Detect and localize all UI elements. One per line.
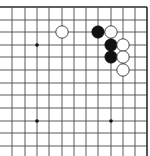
white-stone[interactable] xyxy=(117,39,129,51)
star-point xyxy=(35,43,39,47)
white-stone[interactable] xyxy=(117,64,129,76)
black-stone[interactable] xyxy=(105,39,117,51)
black-stone[interactable] xyxy=(92,26,104,38)
black-stone[interactable] xyxy=(105,51,117,63)
star-point xyxy=(109,119,113,123)
stones xyxy=(56,26,129,76)
white-stone[interactable] xyxy=(105,26,117,38)
star-point xyxy=(35,119,39,123)
white-stone[interactable] xyxy=(117,51,129,63)
board-grid xyxy=(0,7,147,156)
go-board[interactable] xyxy=(0,0,150,156)
white-stone[interactable] xyxy=(56,26,68,38)
